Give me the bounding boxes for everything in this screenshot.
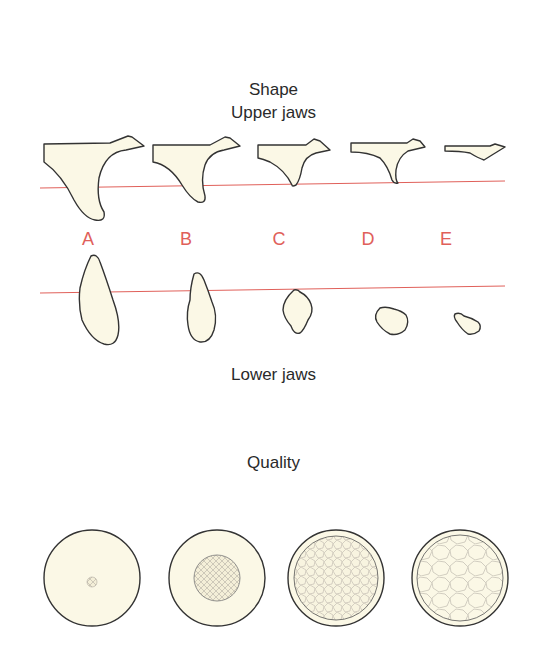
lower-jaw-a [79,255,118,344]
upper-reference-line [40,181,505,188]
upper-jaw-b [153,137,240,202]
quality-grade-4 [412,530,508,626]
lower-jaw-e [454,313,480,334]
lower-jaw-d [376,307,408,334]
lower-jaw-c [283,290,312,334]
lower-jaw-b [187,273,215,342]
upper-jaw-c [258,139,330,186]
jaw-diagram [0,0,547,648]
quality-grade-3 [288,530,384,626]
quality-grade-1 [44,530,140,626]
quality-grade-2 [169,530,265,626]
upper-jaw-e [445,144,505,160]
upper-jaw-d [351,139,425,183]
upper-jaw-a [44,136,144,220]
